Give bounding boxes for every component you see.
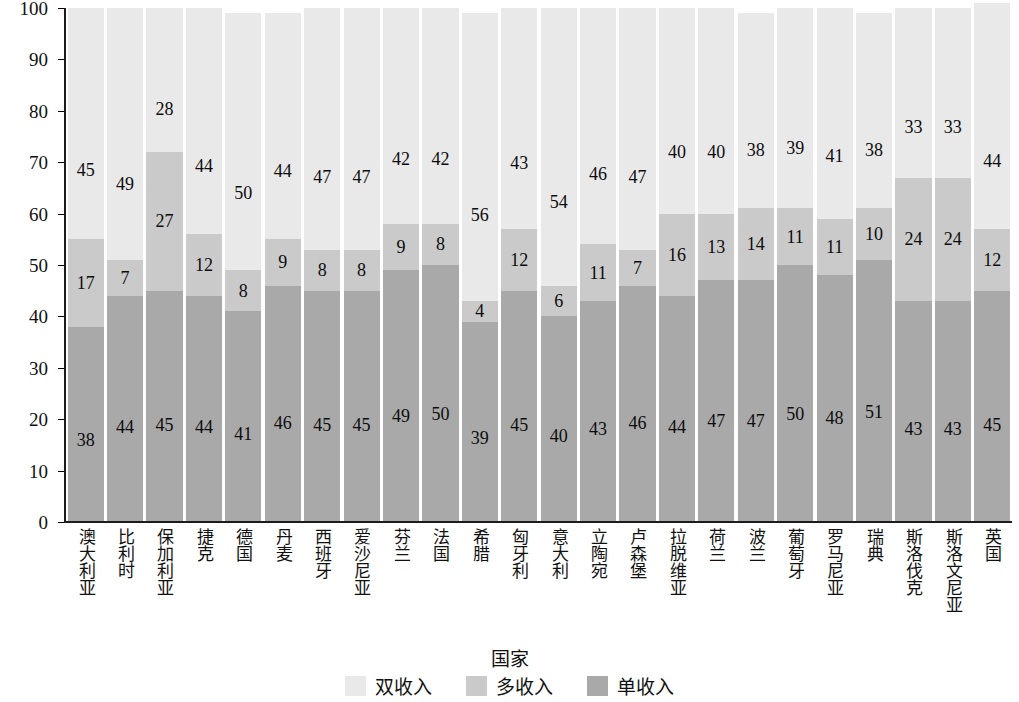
bar-column[interactable]: 451243 [501,8,537,522]
bar-segment[interactable] [895,178,931,301]
bar-segment[interactable] [619,8,655,250]
bar-column[interactable]: 441640 [659,8,695,522]
bar-segment[interactable] [107,8,143,260]
bar-segment[interactable] [68,8,104,239]
bar-segment[interactable] [817,275,853,522]
bar-segment[interactable] [935,178,971,301]
bar-segment[interactable] [225,311,261,522]
bar-segment[interactable] [541,286,577,317]
bar-segment[interactable] [777,208,813,265]
bar-column[interactable]: 511038 [856,8,892,522]
bar-segment[interactable] [344,291,380,522]
bar-column[interactable]: 49942 [383,8,419,522]
legend-label: 多收入 [496,672,553,699]
bar-column[interactable]: 451244 [974,8,1010,522]
bar-segment[interactable] [146,152,182,291]
bar-segment[interactable] [186,296,222,522]
bar-segment[interactable] [856,260,892,522]
bar-segment[interactable] [856,208,892,259]
bar-segment[interactable] [974,291,1010,522]
bar-segment[interactable] [501,291,537,522]
bar-segment[interactable] [225,13,261,270]
bar-segment[interactable] [738,280,774,522]
bar-segment[interactable] [895,301,931,522]
bar-segment[interactable] [974,229,1010,291]
bar-segment[interactable] [817,219,853,276]
bar-segment[interactable] [304,250,340,291]
legend-item[interactable]: 双收入 [345,672,432,699]
bar-segment[interactable] [501,229,537,291]
bar-segment[interactable] [462,322,498,522]
bar-column[interactable]: 432433 [935,8,971,522]
bar-column[interactable]: 46747 [619,8,655,522]
bar-segment[interactable] [974,3,1010,229]
bar-column[interactable]: 50842 [422,8,458,522]
bar-column[interactable]: 46944 [265,8,301,522]
bar-segment[interactable] [107,296,143,522]
legend-item[interactable]: 多收入 [466,672,553,699]
bar-segment[interactable] [383,270,419,522]
bar-segment[interactable] [856,13,892,208]
bar-segment[interactable] [580,8,616,244]
bar-segment[interactable] [895,8,931,178]
bar-segment[interactable] [777,265,813,522]
bar-segment[interactable] [68,239,104,326]
bar-segment[interactable] [619,286,655,522]
bar-segment[interactable] [265,13,301,239]
bar-segment[interactable] [68,327,104,522]
bar-segment[interactable] [422,8,458,224]
bar-segment[interactable] [383,8,419,224]
bar-segment[interactable] [344,250,380,291]
bar-segment[interactable] [304,8,340,250]
bar-segment[interactable] [186,234,222,296]
bar-segment[interactable] [580,301,616,522]
bar-segment[interactable] [422,224,458,265]
bar-segment[interactable] [541,8,577,286]
bar-segment[interactable] [698,280,734,522]
bar-segment[interactable] [146,8,182,152]
bar-segment[interactable] [501,8,537,229]
bar-segment[interactable] [186,8,222,234]
legend-item[interactable]: 单收入 [587,672,674,699]
bar-segment[interactable] [738,208,774,280]
bar-segment[interactable] [580,244,616,301]
bar-segment[interactable] [422,265,458,522]
bar-segment[interactable] [935,8,971,178]
bar-segment[interactable] [146,291,182,522]
bar-column[interactable]: 45847 [304,8,340,522]
bar-segment[interactable] [225,270,261,311]
bar-segment[interactable] [777,8,813,208]
bar-segment[interactable] [107,260,143,296]
bar-segment[interactable] [541,316,577,522]
bar-segment[interactable] [462,301,498,322]
bar-segment[interactable] [698,214,734,281]
bar-column[interactable]: 471438 [738,8,774,522]
bar-column[interactable]: 452728 [146,8,182,522]
bar-segment[interactable] [619,250,655,286]
bar-segment[interactable] [344,8,380,250]
bar-column[interactable]: 481141 [817,8,853,522]
bar-segment[interactable] [265,286,301,522]
bar-column[interactable]: 432433 [895,8,931,522]
bar-segment[interactable] [265,239,301,285]
bar-segment[interactable] [383,224,419,270]
bar-segment[interactable] [659,214,695,296]
bar-segment[interactable] [935,301,971,522]
bar-segment[interactable] [698,8,734,214]
bar-segment[interactable] [817,8,853,219]
bar-segment[interactable] [304,291,340,522]
bar-column[interactable]: 39456 [462,8,498,522]
bar-column[interactable]: 431146 [580,8,616,522]
bar-column[interactable]: 40654 [541,8,577,522]
bar-segment[interactable] [738,13,774,208]
bar-segment[interactable] [462,13,498,301]
bar-column[interactable]: 41850 [225,8,261,522]
bar-column[interactable]: 471340 [698,8,734,522]
bar-segment[interactable] [659,296,695,522]
bar-segment[interactable] [659,8,695,214]
bar-column[interactable]: 501139 [777,8,813,522]
bar-column[interactable]: 381745 [68,8,104,522]
bar-column[interactable]: 45847 [344,8,380,522]
bar-column[interactable]: 441244 [186,8,222,522]
bar-column[interactable]: 44749 [107,8,143,522]
